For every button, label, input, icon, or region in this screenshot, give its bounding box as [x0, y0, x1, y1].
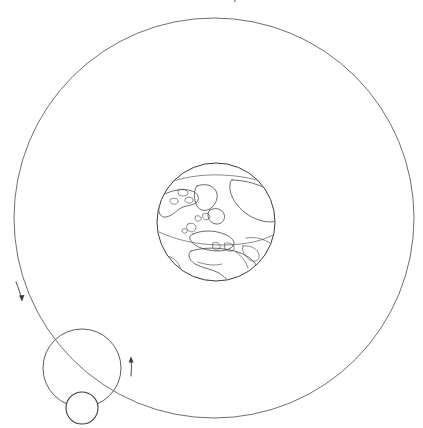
inner-orbit-direction-arrow [129, 357, 134, 377]
orbiting-body-circle [66, 392, 98, 424]
earth-globe [157, 163, 292, 285]
orbit-diagram: The Earth at the Hill-sphere limits [0, 0, 423, 428]
globe-limb [157, 163, 275, 281]
diagram-canvas [0, 0, 423, 428]
outer-orbit-direction-arrow [16, 282, 24, 302]
